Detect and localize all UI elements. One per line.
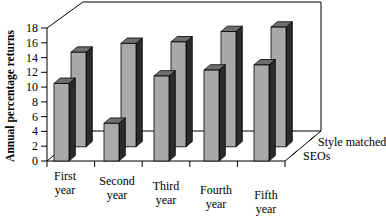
category-label-fifth-year-line2: year — [256, 202, 277, 216]
y-tick-label-16: 16 — [26, 36, 38, 50]
y-axis-ticks: 0 2 4 6 8 10 12 14 16 18 — [26, 21, 47, 168]
x-axis-ticks — [47, 161, 285, 167]
y-tick-label-8: 8 — [32, 95, 38, 109]
category-label-fourth-year: Fourth — [200, 183, 232, 197]
bar-first-year-seos — [54, 78, 75, 161]
category-label-third-year-line2: year — [156, 193, 177, 207]
bar-fifth-year-seos — [254, 60, 275, 161]
category-label-fourth-year-line2: year — [206, 197, 227, 211]
y-axis-top-depth-edge — [47, 2, 83, 28]
y-axis-title: Annual percentage returns — [4, 30, 17, 162]
category-label-third-year: Third — [153, 179, 180, 193]
category-label-fifth-year: Fifth — [254, 188, 277, 202]
y-tick-label-4: 4 — [32, 124, 38, 138]
3d-bar-chart: Annual percentage returns — [0, 0, 386, 219]
y-tick-label-10: 10 — [26, 80, 38, 94]
depth-axis-labels: SEOs Style matched — [291, 135, 386, 163]
y-tick-label-12: 12 — [26, 65, 38, 79]
category-label-first-year: First — [54, 169, 77, 183]
depth-tick-seos — [291, 151, 297, 156]
y-tick-label-2: 2 — [32, 139, 38, 153]
depth-label-style-matched: Style matched — [318, 135, 386, 149]
bar-second-year-seos — [104, 118, 125, 161]
y-tick-label-0: 0 — [32, 154, 38, 168]
depth-tick-style-matched — [309, 136, 315, 141]
x-axis-category-labels: First year Second year Third year Fourth… — [54, 169, 278, 216]
bar-third-year-seos — [154, 71, 175, 161]
bar-fourth-year-seos — [204, 65, 225, 161]
category-label-first-year-line2: year — [55, 183, 76, 197]
chart-container: Annual percentage returns — [0, 0, 386, 219]
category-label-second-year: Second — [99, 174, 134, 188]
y-tick-label-14: 14 — [26, 51, 38, 65]
category-label-second-year-line2: year — [107, 188, 128, 202]
bars-layer — [54, 22, 292, 161]
depth-label-seos: SEOs — [303, 149, 331, 163]
y-tick-label-18: 18 — [26, 21, 38, 35]
y-tick-label-6: 6 — [32, 110, 38, 124]
